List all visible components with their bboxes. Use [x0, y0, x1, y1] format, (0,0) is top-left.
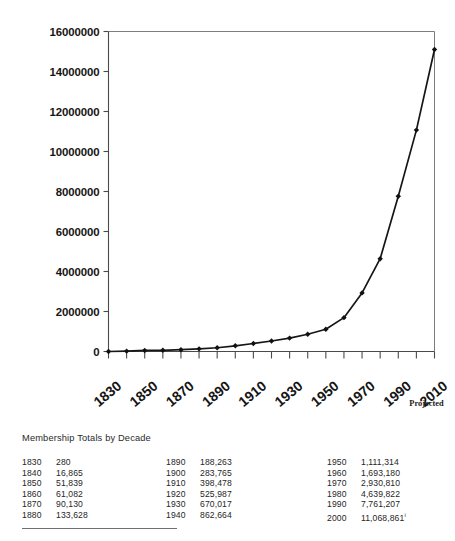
x-tick-label: 1890: [199, 377, 233, 409]
table-row: 1930670,017: [166, 499, 232, 510]
cell-year: 1910: [166, 478, 200, 489]
cell-year: 1870: [22, 499, 56, 510]
y-tick-label: 4000000: [56, 266, 100, 278]
cell-value: 670,017: [200, 499, 232, 510]
cell-value: 283,765: [200, 468, 232, 479]
membership-totals-table: Membership Totals by Decade 183028018401…: [0, 420, 455, 541]
table-row: 19804,639,822: [327, 489, 406, 500]
x-tick-label: 1830: [90, 377, 124, 409]
table-row: 200011,068,861i: [327, 510, 406, 523]
cell-year: 1920: [166, 489, 200, 500]
series-line-membership: [109, 50, 435, 352]
y-tick-label: 14000000: [50, 66, 100, 78]
data-point-marker: [196, 346, 201, 351]
table-caption: Membership Totals by Decade: [22, 433, 151, 443]
table-row: 19702,930,810: [327, 478, 406, 489]
y-axis-ticks: [104, 32, 109, 352]
data-point-marker: [396, 194, 401, 199]
table-row: 1910398,478: [166, 478, 232, 489]
cell-value: 16,865: [56, 468, 83, 479]
table-row: 1940862,664: [166, 510, 232, 521]
cell-year: 1930: [166, 499, 200, 510]
plot-frame: [109, 32, 435, 352]
x-axis-tick-labels: 1830185018701890191019301950197019902010: [90, 377, 450, 409]
table-row: 1880133,628: [22, 510, 88, 521]
table-row: 185051,839: [22, 478, 88, 489]
table-column-1: 1830280184016,865185051,839186061,082187…: [22, 457, 88, 520]
data-point-marker: [269, 338, 274, 343]
x-tick-label: 1870: [163, 377, 197, 409]
x-tick-label: 1930: [271, 377, 305, 409]
cell-year: 2000: [327, 513, 361, 524]
cell-year: 1830: [22, 457, 56, 468]
cell-value: 133,628: [56, 510, 88, 521]
cell-value: 188,263: [200, 457, 232, 468]
projected-annotation: Projected: [409, 399, 444, 408]
table-column-2: 1890188,2631900283,7651910398,4781920525…: [166, 457, 232, 520]
data-point-marker: [160, 348, 165, 353]
x-axis-ticks: [109, 352, 435, 359]
cell-value: 51,839: [56, 478, 83, 489]
membership-growth-chart: 0200000040000006000000800000010000000120…: [0, 0, 455, 420]
cell-year: 1990: [327, 499, 361, 510]
cell-value: 7,761,207: [361, 499, 400, 510]
x-tick-label: 1970: [344, 377, 378, 409]
cell-year: 1970: [327, 478, 361, 489]
cell-year: 1940: [166, 510, 200, 521]
data-point-marker: [414, 127, 419, 132]
y-tick-label: 16000000: [50, 26, 100, 38]
cell-year: 1900: [166, 468, 200, 479]
table-row: 187090,130: [22, 499, 88, 510]
cell-year: 1880: [22, 510, 56, 521]
y-tick-label: 0: [93, 346, 99, 358]
data-point-marker: [124, 348, 129, 353]
table-row: 1900283,765: [166, 468, 232, 479]
table-row: 186061,082: [22, 489, 88, 500]
cell-value: 398,478: [200, 478, 232, 489]
table-row: 184016,865: [22, 468, 88, 479]
table-row: 19907,761,207: [327, 499, 406, 510]
footnote-marker: i: [404, 512, 405, 518]
cell-value: 1,111,314: [361, 457, 399, 468]
table-row: 19501,111,314: [327, 457, 406, 468]
table-row: 1890188,263: [166, 457, 232, 468]
cell-value: 4,639,822: [361, 489, 400, 500]
cell-value: 280: [56, 457, 71, 468]
data-point-marker: [432, 47, 437, 52]
data-point-marker: [214, 345, 219, 350]
cell-year: 1890: [166, 457, 200, 468]
y-tick-label: 8000000: [56, 186, 100, 198]
cell-value: 11,068,861: [361, 513, 404, 524]
table-row: 19601,693,180: [327, 468, 406, 479]
footnote-divider: [22, 528, 177, 529]
data-point-marker: [142, 348, 147, 353]
cell-value: 525,987: [200, 489, 232, 500]
x-tick-label: 1950: [308, 377, 342, 409]
chart-canvas: 0200000040000006000000800000010000000120…: [0, 0, 455, 420]
cell-year: 1950: [327, 457, 361, 468]
cell-value: 61,082: [56, 489, 83, 500]
y-tick-label: 6000000: [56, 226, 100, 238]
y-tick-label: 12000000: [50, 106, 100, 118]
series-markers-membership: [106, 47, 437, 354]
data-point-marker: [233, 343, 238, 348]
y-tick-label: 2000000: [56, 306, 100, 318]
table-row: 1920525,987: [166, 489, 232, 500]
cell-year: 1960: [327, 468, 361, 479]
cell-year: 1980: [327, 489, 361, 500]
cell-year: 1850: [22, 478, 56, 489]
cell-year: 1840: [22, 468, 56, 479]
cell-year: 1860: [22, 489, 56, 500]
cell-value: 1,693,180: [361, 468, 400, 479]
cell-value: 2,930,810: [361, 478, 400, 489]
cell-value: 862,664: [200, 510, 232, 521]
data-point-marker: [251, 341, 256, 346]
data-point-marker: [106, 349, 111, 354]
x-tick-label: 1910: [235, 377, 269, 409]
data-point-marker: [305, 332, 310, 337]
y-tick-label: 10000000: [50, 146, 100, 158]
projected-annotation-label: Projected: [409, 399, 444, 408]
y-axis-tick-labels: 0200000040000006000000800000010000000120…: [50, 26, 100, 358]
data-point-marker: [287, 335, 292, 340]
cell-value: 90,130: [56, 499, 83, 510]
